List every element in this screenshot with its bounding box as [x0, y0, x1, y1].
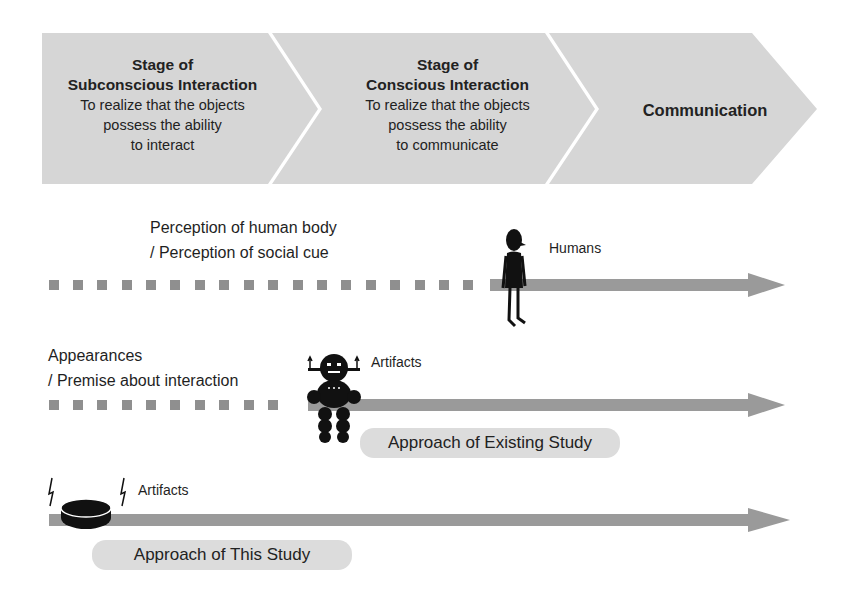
stage-conscious-title-2: Conscious Interaction: [340, 75, 555, 95]
stage-subconscious-title-2: Subconscious Interaction: [55, 75, 270, 95]
stage-conscious-desc-1: To realize that the objects: [340, 95, 555, 115]
stage-subconscious-desc-3: to interact: [55, 135, 270, 155]
row-humans-agent-label: Humans: [549, 240, 601, 256]
stage-conscious-text: Stage of Conscious Interaction To realiz…: [340, 55, 555, 155]
row-humans-label-1: Perception of human body: [150, 217, 337, 239]
dashed-segment: [49, 400, 278, 410]
row-humans-label-2: / Perception of social cue: [150, 242, 329, 264]
row-existing-agent-label: Artifacts: [371, 354, 422, 370]
row-existing-label-2: / Premise about interaction: [48, 370, 238, 392]
stage-subconscious-text: Stage of Subconscious Interaction To rea…: [55, 55, 270, 155]
row-existing-timeline: [0, 390, 841, 430]
stage-subconscious-desc-1: To realize that the objects: [55, 95, 270, 115]
stage-conscious-desc-3: to communicate: [340, 135, 555, 155]
robot-icon: [305, 352, 365, 444]
human-figure-icon: [495, 228, 535, 334]
row-existing-label-1: Appearances: [48, 345, 142, 367]
dashed-segment: [49, 280, 473, 290]
disc-device-icon: [46, 476, 136, 536]
row-this-study-agent-label: Artifacts: [138, 482, 189, 498]
stage-conscious-desc-2: possess the ability: [340, 115, 555, 135]
approach-existing-study-badge: Approach of Existing Study: [360, 428, 620, 458]
solid-arrow: [49, 508, 790, 532]
approach-this-study-badge: Approach of This Study: [92, 540, 352, 570]
stage-conscious-title-1: Stage of: [340, 55, 555, 75]
stage-subconscious-desc-2: possess the ability: [55, 115, 270, 135]
stage-subconscious-title-1: Stage of: [55, 55, 270, 75]
row-humans-timeline: [0, 270, 841, 310]
stage-communication-title: Communication: [615, 100, 795, 120]
stage-communication-text: Communication: [615, 100, 795, 120]
solid-arrow: [308, 393, 785, 417]
